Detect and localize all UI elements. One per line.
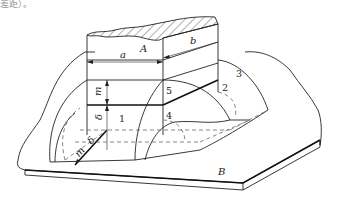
- label-delta-diagonal: δ: [85, 135, 97, 147]
- label-delta-vertical: δ: [93, 114, 104, 120]
- zone-label-5: 5: [166, 85, 172, 96]
- dimension-a: [87, 60, 163, 64]
- label-m-diagonal: m: [72, 145, 87, 159]
- dimension-m-delta-vertical: [105, 80, 109, 150]
- label-m-vertical: m: [92, 87, 103, 96]
- zone-label-1: 1: [119, 113, 125, 124]
- label-a-block: A: [139, 43, 147, 54]
- label-dim-a: a: [120, 49, 126, 60]
- zone-label-4: 4: [166, 110, 172, 121]
- label-dim-b: b: [190, 35, 196, 46]
- welding-zone-diagram: A a b m δ δ m B 1 2 3 4 5: [0, 0, 340, 205]
- zone-label-2: 2: [222, 82, 228, 93]
- label-plate-b: B: [217, 166, 225, 177]
- zone-label-3: 3: [236, 68, 242, 79]
